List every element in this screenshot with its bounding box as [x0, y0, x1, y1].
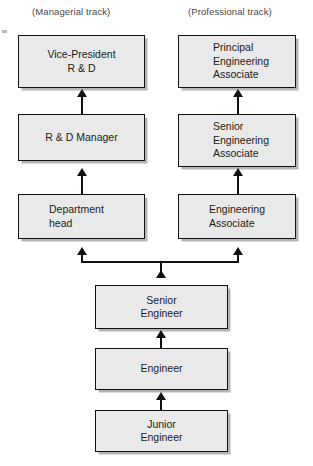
node-line: Associate [179, 68, 259, 82]
node-line: Engineering [179, 55, 269, 69]
scan-artifact [2, 30, 7, 33]
node-engineering-associate[interactable]: Engineering Associate [178, 194, 296, 239]
node-senior-engineer[interactable]: Senior Engineer [95, 285, 228, 329]
node-rd-manager[interactable]: R & D Manager [18, 114, 145, 161]
arrowhead-up [156, 392, 166, 400]
arrowhead-up [233, 89, 243, 97]
node-vice-president-rd[interactable]: Vice-President R & D [18, 35, 145, 88]
track-header-professional: (Professional track) [188, 6, 272, 17]
org-chart-diagram: (Managerial track) (Professional track) … [0, 0, 313, 466]
edge-rd-manager-to-vice-president [81, 96, 83, 114]
arrowhead-up [233, 168, 243, 176]
node-line: Associate [179, 217, 255, 231]
node-principal-engineering-associate[interactable]: Principal Engineering Associate [178, 35, 296, 88]
arrowhead-up [156, 330, 166, 338]
edge-engineer-to-senior-engineer [160, 337, 162, 348]
node-line: Junior [96, 418, 227, 432]
node-line: Principal [179, 41, 253, 55]
arrowhead-up [156, 270, 166, 278]
track-header-managerial: (Managerial track) [32, 6, 110, 17]
node-line: Senior [179, 120, 243, 134]
node-line: Engineering [179, 134, 269, 148]
node-line: R & D Manager [19, 131, 144, 145]
node-line: Associate [179, 147, 259, 161]
node-line: Department [19, 203, 104, 217]
node-engineer[interactable]: Engineer [95, 348, 228, 390]
node-junior-engineer[interactable]: Junior Engineer [95, 410, 228, 452]
arrowhead-up [77, 168, 87, 176]
node-line: Engineering [179, 203, 265, 217]
node-line: R & D [19, 62, 144, 76]
edge-associate-to-senior-associate [237, 175, 239, 194]
arrowhead-up [233, 247, 243, 255]
node-line: Vice-President [19, 48, 144, 62]
arrowhead-up [77, 247, 87, 255]
node-senior-engineering-associate[interactable]: Senior Engineering Associate [178, 114, 296, 167]
arrowhead-up [77, 89, 87, 97]
node-line: Engineer [96, 431, 227, 445]
node-line: Engineer [96, 307, 227, 321]
edge-department-head-to-rd-manager [81, 175, 83, 194]
edge-senior-associate-to-principal-associate [237, 96, 239, 114]
edge-junior-engineer-to-engineer [160, 399, 162, 410]
node-department-head[interactable]: Department head [18, 194, 145, 239]
node-line: Engineer [96, 362, 227, 376]
node-line: Senior [96, 294, 227, 308]
node-line: head [19, 217, 72, 231]
